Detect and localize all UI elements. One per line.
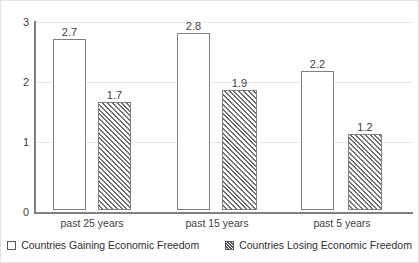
y-tick-3: 3	[5, 17, 29, 28]
gridline-3	[35, 22, 413, 23]
legend-swatch-hatched-square-icon	[225, 241, 234, 250]
bar-losing-past-25-years	[98, 102, 131, 210]
bar-label-losing-past-15-years: 1.9	[232, 78, 247, 89]
chart-legend: Countries Gaining Economic Freedom Count…	[1, 239, 418, 251]
legend-item-gaining[interactable]: Countries Gaining Economic Freedom	[7, 239, 199, 251]
x-axis-line	[34, 212, 413, 214]
y-axis-tick-labels: 3 2 1 0	[1, 1, 29, 263]
bar-label-gaining-past-15-years: 2.8	[186, 21, 201, 32]
y-tick-1: 1	[5, 137, 29, 148]
category-label-past-15-years: past 15 years	[185, 217, 248, 229]
bar-label-gaining-past-25-years: 2.7	[62, 27, 77, 38]
bar-chart-figure: 3 2 1 0 2.7 1.7 2.8 1.9 2.2 1.2 past 25 …	[0, 0, 419, 263]
legend-label-gaining: Countries Gaining Economic Freedom	[21, 239, 199, 251]
y-tick-0: 0	[5, 207, 29, 218]
gridline-2	[35, 82, 413, 83]
bar-label-losing-past-25-years: 1.7	[107, 90, 122, 101]
category-label-past-5-years: past 5 years	[313, 217, 370, 229]
bar-gaining-past-25-years	[53, 39, 86, 210]
y-axis-line	[34, 21, 36, 213]
bar-gaining-past-5-years	[301, 71, 334, 210]
bar-label-gaining-past-5-years: 2.2	[310, 59, 325, 70]
bar-losing-past-5-years	[348, 134, 382, 210]
legend-item-losing[interactable]: Countries Losing Economic Freedom	[225, 239, 412, 251]
bar-label-losing-past-5-years: 1.2	[357, 122, 372, 133]
legend-label-losing: Countries Losing Economic Freedom	[239, 239, 412, 251]
category-label-past-25-years: past 25 years	[60, 217, 123, 229]
legend-swatch-empty-square-icon	[7, 241, 16, 250]
bar-gaining-past-15-years	[177, 33, 210, 210]
y-tick-2: 2	[5, 77, 29, 88]
bar-losing-past-15-years	[222, 90, 257, 210]
